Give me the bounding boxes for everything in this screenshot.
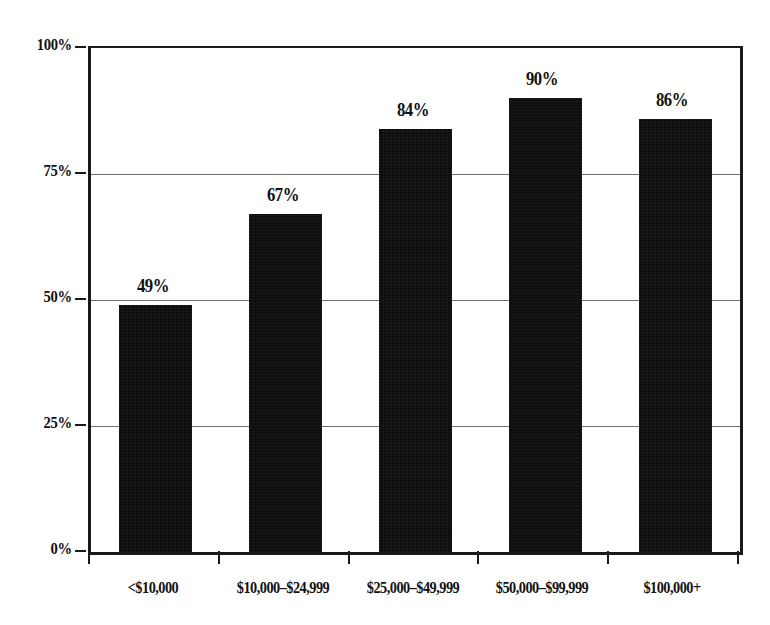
y-axis-tick-mark [75,298,86,300]
x-axis-category-label: <$10,000 [81,578,224,598]
cropped-title-remnant [150,0,710,5]
x-axis-tick-mark [88,551,90,564]
bar-value-label: 67% [247,184,317,206]
y-axis-tick-mark [75,550,86,552]
y-axis-tick-mark [75,424,86,426]
plot-area [88,46,743,555]
y-axis-tick-label: 50% [44,287,72,307]
y-axis-tick-mark [75,46,86,48]
x-axis-category-label: $10,000–$24,999 [211,578,354,598]
x-axis-tick-mark [607,551,609,564]
bar [509,98,582,552]
bar [119,305,192,552]
y-axis-tick-label: 75% [44,161,72,181]
x-axis-tick-mark [477,551,479,564]
y-axis-tick-label: 0% [51,539,72,559]
y-axis-tick-label: 25% [44,413,72,433]
bar-chart-figure: 0%25%50%75%100% 49%67%84%90%86% <$10,000… [0,0,770,625]
bar-value-label: 86% [637,89,707,111]
y-axis-tick-label: 100% [37,35,72,55]
bar [639,119,712,552]
x-axis-category-label: $50,000–$99,999 [471,578,614,598]
y-axis-tick-mark [75,172,86,174]
bar-value-label: 90% [507,68,577,90]
x-axis-tick-mark [348,551,350,564]
bar [379,129,452,552]
x-axis-category-label: $25,000–$49,999 [341,578,484,598]
bar-value-label: 49% [118,275,188,297]
x-axis-category-label: $100,000+ [601,578,744,598]
x-axis-tick-mark [218,551,220,564]
bar-value-label: 84% [377,99,447,121]
x-axis-tick-mark [737,551,739,564]
bar [249,214,322,552]
